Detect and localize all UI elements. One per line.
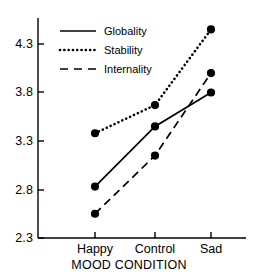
series-stability: [91, 25, 215, 137]
legend-swatches: [60, 31, 96, 69]
x-tick-label-sad: Sad: [171, 242, 251, 256]
y-tick-label-4: 4.3: [0, 37, 33, 51]
y-tick-label-0: 2.3: [0, 231, 33, 245]
x-axis-ticks: [95, 232, 211, 238]
legend-label-stability: Stability: [104, 44, 143, 56]
legend-label-internality: Internality: [104, 63, 152, 75]
chart-figure: 4.3 3.8 3.3 2.8 2.3 Happy Control Sad MO…: [0, 0, 258, 279]
y-axis-ticks: [38, 44, 44, 238]
plot-area: [0, 0, 258, 279]
y-tick-label-1: 2.8: [0, 183, 33, 197]
y-tick-label-2: 3.3: [0, 134, 33, 148]
x-axis-title: MOOD CONDITION: [0, 258, 258, 272]
series-internality: [91, 69, 215, 218]
y-tick-label-3: 3.8: [0, 85, 33, 99]
legend-label-globality: Globality: [104, 25, 147, 37]
